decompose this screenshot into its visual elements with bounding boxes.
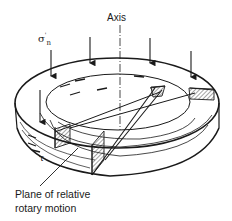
caption-line-2: rotary motion	[15, 201, 90, 215]
plane-caption: Plane of relative rotary motion	[15, 187, 90, 215]
shear-motion-arrows	[28, 76, 144, 152]
axis-label: Axis	[107, 13, 126, 23]
caption-leader-line	[40, 148, 78, 186]
inner-top-edge	[46, 74, 190, 130]
normal-stress-label: σ'n	[38, 33, 51, 47]
section-right	[189, 88, 214, 100]
hatched-sections	[55, 86, 214, 175]
caption-line-1: Plane of relative	[15, 187, 90, 201]
shear-stress-label: τ	[39, 154, 44, 163]
section-back	[151, 86, 165, 97]
ring-body	[15, 25, 219, 176]
section-left	[55, 124, 70, 148]
ring-shear-diagram: Axis σ'n τ Plane of relative rotary moti…	[0, 0, 232, 221]
section-front	[92, 131, 104, 175]
